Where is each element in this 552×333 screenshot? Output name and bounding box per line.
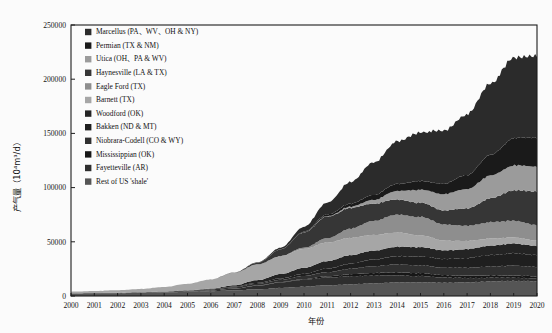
legend-swatch xyxy=(85,151,91,157)
x-tick-label: 2013 xyxy=(366,301,381,310)
x-tick-label: 2017 xyxy=(460,301,475,310)
x-tick-label: 2015 xyxy=(413,301,428,310)
legend-swatch xyxy=(85,97,91,103)
legend-swatch xyxy=(85,165,91,171)
legend-label: Mississippian (OK) xyxy=(96,150,155,159)
y-tick-label: 200000 xyxy=(43,75,66,84)
legend-label: Haynesville (LA & TX) xyxy=(96,68,167,77)
stacked-area-chart: 050000100000150000200000250000 200020012… xyxy=(0,0,552,333)
legend-swatch xyxy=(85,83,91,89)
legend-label: Permian (TX & NM) xyxy=(96,41,159,50)
legend-label: Eagle Ford (TX) xyxy=(96,82,146,91)
legend-swatch xyxy=(85,110,91,116)
x-tick-label: 2001 xyxy=(87,301,102,310)
chart-legend: Marcellus (PA、WV、OH & NY)Permian (TX & N… xyxy=(85,27,199,186)
y-tick-label: 50000 xyxy=(47,238,66,247)
x-tick-label: 2012 xyxy=(343,301,358,310)
x-tick-label: 2008 xyxy=(250,301,265,310)
x-tick-label: 2007 xyxy=(227,301,242,310)
y-tick-label: 0 xyxy=(62,292,66,301)
legend-swatch xyxy=(85,56,91,62)
y-tick-label: 150000 xyxy=(43,129,66,138)
legend-label: Rest of US 'shale' xyxy=(96,177,149,186)
legend-label: Bakken (ND & MT) xyxy=(96,122,157,131)
x-axis-title: 年份 xyxy=(308,316,325,326)
legend-swatch xyxy=(85,42,91,48)
y-tick-label: 250000 xyxy=(43,21,66,30)
chart-figure: 050000100000150000200000250000 200020012… xyxy=(0,0,552,333)
legend-swatch xyxy=(85,138,91,144)
legend-label: Niobrara-Codell (CO & WY) xyxy=(96,136,184,145)
x-tick-label: 2011 xyxy=(320,301,335,310)
x-tick-label: 2010 xyxy=(296,301,311,310)
x-tick-label: 2016 xyxy=(436,301,451,310)
legend-label: Marcellus (PA、WV、OH & NY) xyxy=(96,27,199,36)
legend-label: Barnett (TX) xyxy=(96,95,135,104)
y-axis-ticks: 050000100000150000200000250000 xyxy=(43,21,75,301)
y-axis-title: 产气量（10⁴m³/d） xyxy=(12,138,22,211)
x-tick-label: 2014 xyxy=(390,301,405,310)
legend-swatch xyxy=(85,124,91,130)
x-tick-label: 2020 xyxy=(529,301,544,310)
legend-label: Fayetteville (AR) xyxy=(96,163,148,172)
x-tick-label: 2002 xyxy=(110,301,125,310)
x-tick-label: 2009 xyxy=(273,301,288,310)
x-tick-label: 2019 xyxy=(506,301,521,310)
legend-swatch xyxy=(85,29,91,35)
x-tick-label: 2000 xyxy=(63,301,78,310)
x-tick-label: 2005 xyxy=(180,301,195,310)
legend-label: Utica (OH、PA & WV) xyxy=(96,54,167,63)
x-tick-label: 2018 xyxy=(483,301,498,310)
legend-swatch xyxy=(85,70,91,76)
x-tick-label: 2006 xyxy=(203,301,218,310)
legend-swatch xyxy=(85,178,91,184)
x-tick-label: 2004 xyxy=(157,301,172,310)
x-tick-label: 2003 xyxy=(133,301,148,310)
y-tick-label: 100000 xyxy=(43,183,66,192)
legend-label: Woodford (OK) xyxy=(96,109,144,118)
